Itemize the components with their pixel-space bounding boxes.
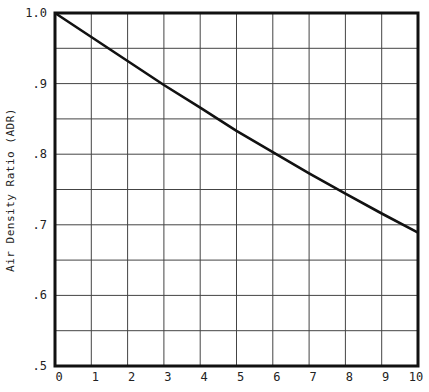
grid-lines — [55, 13, 418, 366]
x-tick-label: 3 — [164, 370, 171, 384]
line-chart: 012345678910 .5.6.7.8.91.0 Air Density R… — [0, 0, 429, 392]
y-tick-label: .7 — [33, 218, 47, 232]
x-tick-label: 0 — [55, 370, 62, 384]
x-axis-ticks: 012345678910 — [55, 370, 423, 384]
x-tick-label: 2 — [128, 370, 135, 384]
y-axis-label: Air Density Ratio (ADR) — [4, 108, 17, 272]
y-tick-label: .6 — [33, 288, 47, 302]
x-tick-label: 4 — [201, 370, 208, 384]
x-tick-label: 6 — [273, 370, 280, 384]
x-tick-label: 8 — [346, 370, 353, 384]
y-axis-ticks: .5.6.7.8.91.0 — [25, 6, 47, 373]
y-tick-label: 1.0 — [25, 6, 47, 20]
x-tick-label: 10 — [409, 370, 423, 384]
x-tick-label: 9 — [382, 370, 389, 384]
x-tick-label: 7 — [309, 370, 316, 384]
y-tick-label: .9 — [33, 77, 47, 91]
y-tick-label: .5 — [33, 359, 47, 373]
y-tick-label: .8 — [33, 147, 47, 161]
x-tick-label: 5 — [237, 370, 244, 384]
x-tick-label: 1 — [92, 370, 99, 384]
